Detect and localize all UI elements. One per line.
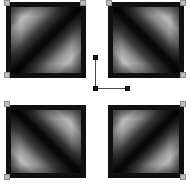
gradient-fill-top-left [11,7,81,73]
panel-top-left-surface [11,7,81,73]
figure-title: Quadrant Gradient Panel [0,0,1,1]
panel-bottom-right-surface [113,110,179,173]
gradient-fill-bottom-left [11,110,81,173]
resize-handle-mid-left-lower[interactable] [4,101,10,107]
resize-handle-top-right-outer[interactable] [180,0,186,6]
resize-handle-mid-right-upper[interactable] [180,72,186,78]
resize-handle-top-left-outer[interactable] [4,0,10,6]
gradient-fill-bottom-right [113,110,179,173]
resize-handle-top-right-inner[interactable] [106,0,112,6]
resize-handle-bottom-left-outer[interactable] [4,174,10,180]
resize-handle-mid-right-lower[interactable] [180,101,186,107]
panel-top-right[interactable] [108,2,184,78]
figure-canvas: Quadrant Gradient Panel [0,0,190,186]
resize-handle-bottom-right-outer[interactable] [180,174,186,180]
panel-assembly [6,2,184,178]
panel-bottom-left[interactable] [6,105,86,178]
panel-bottom-left-surface [11,110,81,173]
panel-bottom-right[interactable] [108,105,184,178]
resize-handle-top-left-inner[interactable] [80,0,86,6]
panel-top-left[interactable] [6,2,86,78]
panel-top-right-surface [113,7,179,73]
resize-handle-mid-left-upper[interactable] [4,72,10,78]
gradient-fill-top-right [113,7,179,73]
